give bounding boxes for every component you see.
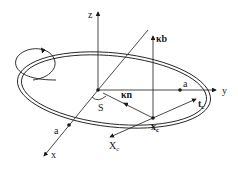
point-a-x xyxy=(67,123,71,127)
kappa-n-label: κn xyxy=(121,89,133,100)
axes xyxy=(44,12,216,156)
x-label: x xyxy=(51,149,56,160)
angle-arc xyxy=(92,96,106,100)
Xc-label: Xc xyxy=(109,140,119,153)
tc-vector xyxy=(153,99,196,118)
tc-label: tc xyxy=(198,98,204,111)
ring-geometry-diagram: z y x S a a κb κn xc tc Xc xyxy=(0,0,238,169)
a-label-x: a xyxy=(54,125,59,136)
origin-label: S xyxy=(98,102,104,113)
a-label-y: a xyxy=(183,78,188,89)
xc-label: xc xyxy=(151,121,159,134)
point-a-y xyxy=(178,88,182,92)
x-axis xyxy=(44,90,98,156)
point-xc xyxy=(151,116,155,120)
y-label: y xyxy=(222,85,227,96)
kappa-b-label: κb xyxy=(156,33,168,44)
origin-point xyxy=(96,88,100,92)
z-label: z xyxy=(88,9,93,20)
